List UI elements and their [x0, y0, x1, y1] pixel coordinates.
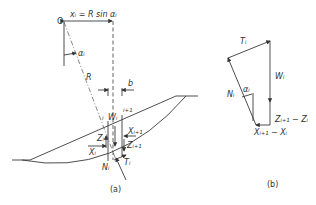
- polygon-angle-label: αᵢ: [243, 85, 250, 94]
- x-right-label: Xᵢ₊₁: [127, 127, 142, 136]
- slice-right-label: i+1: [123, 107, 133, 113]
- z-left-label: Zᵢ: [96, 134, 104, 143]
- caption-b: (b): [267, 180, 278, 189]
- radius-label: R: [86, 73, 92, 82]
- polygon-x-diff-label: Xᵢ₊₁ − Xᵢ: [253, 128, 288, 137]
- slice-left-label: i: [102, 115, 104, 121]
- centre-label: O: [57, 17, 63, 26]
- polygon-normal-label: Nᵢ: [227, 90, 235, 99]
- polygon-weight-label: Wᵢ: [275, 72, 285, 81]
- z-right-label: Zᵢ₊₁: [126, 141, 141, 150]
- ground-surface: [12, 96, 198, 160]
- angle-label: αᵢ: [78, 49, 85, 58]
- normal-label: Nᵢ: [102, 163, 110, 172]
- x-left-label: Xᵢ: [88, 148, 96, 157]
- weight-label: Wᵢ: [108, 113, 118, 122]
- offset-label: xᵢ = R sin αᵢ: [69, 10, 117, 19]
- figure-a: O xᵢ = R sin αᵢ αᵢ R b i i+1 Wᵢ Zᵢ Xᵢ: [12, 10, 198, 194]
- angle-arc: [64, 53, 76, 55]
- figure-b: Tᵢ Wᵢ Zᵢ₊₁ − Zᵢ Xᵢ₊₁ − Xᵢ Nᵢ αᵢ (b): [227, 37, 309, 189]
- polygon-shear: [228, 41, 270, 58]
- width-label: b: [128, 79, 133, 88]
- slope-stability-diagram: O xᵢ = R sin αᵢ αᵢ R b i i+1 Wᵢ Zᵢ Xᵢ: [0, 0, 316, 205]
- shear-label: Tᵢ: [124, 158, 131, 167]
- caption-a: (a): [110, 185, 121, 194]
- polygon-z-diff-label: Zᵢ₊₁ − Zᵢ: [274, 115, 309, 124]
- polygon-shear-label: Tᵢ: [240, 37, 247, 46]
